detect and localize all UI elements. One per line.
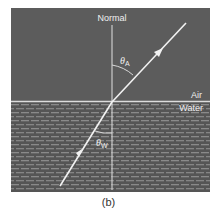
refraction-diagram: Normal θA θW Air Water xyxy=(0,0,217,214)
normal-label: Normal xyxy=(97,13,126,23)
water-region xyxy=(11,102,210,192)
water-label: Water xyxy=(179,103,203,113)
air-label: Air xyxy=(191,90,202,100)
figure-caption: (b) xyxy=(0,196,217,208)
